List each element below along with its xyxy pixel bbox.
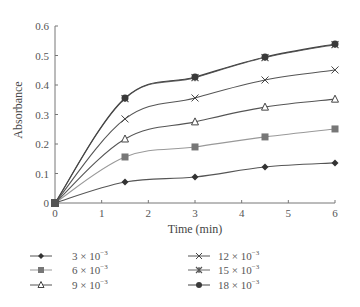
- series-0: [51, 159, 339, 207]
- diamond-marker-icon: [262, 164, 269, 171]
- x-tick-label: 3: [192, 207, 198, 219]
- y-tick-label: 0.3: [35, 109, 49, 121]
- diamond-marker-icon: [332, 159, 339, 166]
- circle-marker-icon: [332, 40, 339, 47]
- diamond-marker-icon: [192, 174, 199, 181]
- triangle-marker-icon: [122, 135, 129, 142]
- x-tick-label: 5: [286, 207, 292, 219]
- square-marker-icon: [38, 267, 44, 273]
- x-marker-icon: [122, 115, 129, 122]
- x-marker-icon: [192, 94, 199, 101]
- x-tick-label: 4: [239, 207, 245, 219]
- square-marker-icon: [122, 153, 129, 160]
- circle-marker-icon: [122, 94, 129, 101]
- diamond-marker-icon: [122, 179, 129, 186]
- x-axis-title: Time (min): [168, 222, 223, 236]
- x-tick-label: 0: [52, 207, 58, 219]
- legend-label: 18 × 10−3: [218, 278, 260, 291]
- legend-label: 12 × 10−3: [218, 249, 260, 262]
- legend-item: 12 × 10−3: [188, 249, 260, 262]
- series-line: [55, 70, 335, 203]
- diamond-marker-icon: [38, 253, 44, 259]
- legend-item: 18 × 10−3: [188, 278, 260, 291]
- circle-marker-icon: [196, 282, 202, 288]
- series-layer: [51, 40, 339, 207]
- series-line: [55, 99, 335, 203]
- square-marker-icon: [332, 125, 339, 132]
- square-marker-icon: [192, 143, 199, 150]
- circle-marker-icon: [192, 74, 199, 81]
- y-tick-label: 0.5: [35, 50, 49, 62]
- x-tick-label: 6: [332, 207, 338, 219]
- y-tick-label: 0.2: [35, 138, 49, 150]
- circle-marker-icon: [262, 53, 269, 60]
- legend-label: 6 × 10−3: [72, 263, 108, 276]
- legend-label: 3 × 10−3: [72, 249, 108, 262]
- legend-label: 15 × 10−3: [218, 263, 260, 276]
- series-line: [55, 163, 335, 203]
- y-tick-label: 0.4: [35, 79, 49, 91]
- y-tick-label: 0: [44, 197, 50, 209]
- x-tick-label: 1: [99, 207, 105, 219]
- legend-item: 6 × 10−3: [30, 263, 108, 276]
- y-tick-label: 0.6: [35, 20, 49, 32]
- legend-item: 15 × 10−3: [188, 263, 260, 276]
- origin-marker-icon: [51, 199, 59, 207]
- square-marker-icon: [262, 133, 269, 140]
- axes: 012345600.10.20.30.40.50.6: [35, 20, 338, 219]
- absorbance-chart: 012345600.10.20.30.40.50.6 Time (min) Ab…: [0, 0, 360, 307]
- y-axis-title: Absorbance: [11, 81, 25, 138]
- series-line: [55, 129, 335, 203]
- legend: 3 × 10−36 × 10−39 × 10−312 × 10−315 × 10…: [30, 249, 260, 291]
- legend-item: 3 × 10−3: [30, 249, 108, 262]
- legend-label: 9 × 10−3: [72, 278, 108, 291]
- x-tick-label: 2: [146, 207, 152, 219]
- triangle-marker-icon: [332, 95, 339, 102]
- y-tick-label: 0.1: [35, 168, 49, 180]
- legend-item: 9 × 10−3: [30, 278, 108, 291]
